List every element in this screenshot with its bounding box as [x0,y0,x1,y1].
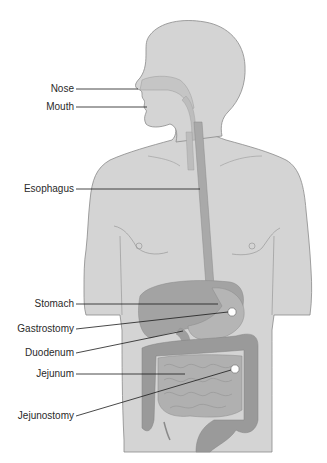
gastrostomy-stoma [228,308,236,316]
label-nose: Nose [51,83,74,95]
label-jejunum: Jejunum [36,368,74,380]
anatomy-illustration [0,0,327,463]
jejunostomy-stoma [231,365,239,373]
label-duodenum: Duodenum [25,347,74,359]
digestive-system-diagram: Nose Mouth Esophagus Stomach Gastrostomy… [0,0,327,463]
label-gastrostomy: Gastrostomy [17,323,74,335]
label-mouth: Mouth [46,101,74,113]
label-jejunostomy: Jejunostomy [18,410,74,422]
label-esophagus: Esophagus [24,183,74,195]
label-stomach: Stomach [35,298,74,310]
